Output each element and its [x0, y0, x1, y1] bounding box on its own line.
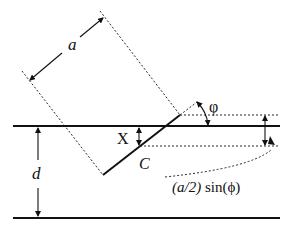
formula-sin-part: sin(ϕ): [201, 179, 240, 195]
label-x: X: [117, 131, 129, 147]
plate-extension-dashed: [180, 102, 197, 115]
label-formula: (a/2) sin(ϕ): [172, 180, 240, 195]
label-a: a: [68, 36, 77, 53]
right-perpendicular-dashed: [100, 11, 180, 115]
label-phi: φ: [209, 99, 218, 115]
formula-italic-part: (a/2): [172, 179, 201, 195]
label-d: d: [32, 165, 41, 182]
a-arrow-upper: [80, 18, 103, 37]
left-perpendicular-dashed: [22, 71, 103, 175]
formula-pointer-arrowhead: [268, 136, 275, 145]
phi-angle-arc: [197, 102, 208, 125]
a-arrow-lower: [30, 53, 62, 80]
label-c: C: [139, 156, 150, 172]
formula-pointer-dashed: [165, 150, 271, 177]
diagram-canvas: [0, 0, 293, 229]
